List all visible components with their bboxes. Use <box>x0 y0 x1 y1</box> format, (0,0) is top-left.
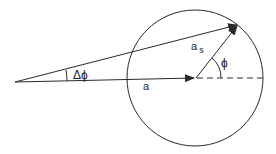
phasor-diagram: Δϕ a as ϕ <box>0 0 276 154</box>
label-delta-phi: Δϕ <box>73 68 88 82</box>
label-a: a <box>143 80 150 92</box>
label-phi: ϕ <box>221 56 228 70</box>
label-a-s-main: a <box>191 40 198 52</box>
vector-a <box>15 78 194 82</box>
delta-phi-arc <box>66 70 67 81</box>
label-a-s-sub: s <box>199 45 204 55</box>
label-a-s: as <box>191 40 204 55</box>
phi-arc <box>212 58 221 78</box>
vector-resultant <box>15 25 237 82</box>
